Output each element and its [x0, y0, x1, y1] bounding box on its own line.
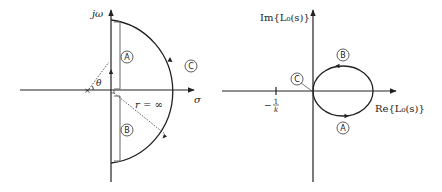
- theta-label: θ: [96, 78, 102, 88]
- axis-direction-arrow-icon: [109, 69, 113, 74]
- svg-text:k: k: [274, 106, 278, 114]
- bracket-b: [114, 96, 120, 161]
- svg-text:B: B: [340, 51, 346, 60]
- jw-axis-label: jω: [90, 8, 103, 19]
- svg-text:B: B: [124, 126, 130, 135]
- nyquist-plot-diagram: − 1 k Im{L₀(s)} Re{L₀(s)} B A C: [222, 10, 425, 182]
- segment-label-b-right: B: [337, 49, 349, 61]
- radius-label: r = ∞: [135, 99, 163, 110]
- segment-label-a-right: A: [337, 122, 349, 134]
- lower-direction-arrow-icon: [345, 114, 350, 119]
- imag-axis-label: Im{L₀(s)}: [260, 12, 310, 23]
- segment-label-a: A: [121, 51, 133, 63]
- upper-direction-arrow-icon: [335, 64, 340, 69]
- arc-direction-arrow-lower-icon: [163, 134, 168, 139]
- real-axis-label: Re{L₀(s)}: [375, 103, 425, 114]
- svg-text:A: A: [340, 124, 346, 133]
- segment-label-b: B: [121, 124, 133, 136]
- bracket-a: [114, 22, 120, 89]
- pole-marker: ×: [84, 86, 91, 95]
- nyquist-figure: × jω σ θ r = ∞ A B C: [0, 0, 442, 192]
- segment-label-c-right: C: [291, 73, 303, 85]
- svg-text:−: −: [264, 100, 272, 110]
- s-plane-diagram: × jω σ θ r = ∞ A B C: [20, 8, 202, 182]
- svg-text:C: C: [188, 62, 194, 71]
- sigma-axis-label: σ: [194, 94, 202, 105]
- segment-c-pointer: [301, 83, 312, 91]
- svg-text:C: C: [294, 75, 300, 84]
- arc-direction-arrow-icon: [168, 57, 173, 62]
- svg-text:A: A: [124, 53, 130, 62]
- segment-label-c: C: [185, 60, 197, 72]
- minus-one-over-k-label: − 1 k: [264, 98, 279, 114]
